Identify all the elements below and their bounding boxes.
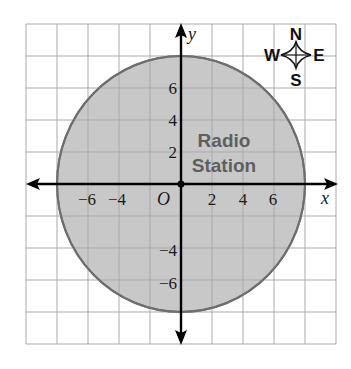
origin-point xyxy=(178,181,185,188)
x-tick-label: −4 xyxy=(108,190,127,209)
y-tick-label: 4 xyxy=(169,111,178,130)
region-label-line2: Station xyxy=(192,155,256,176)
compass-west-label: W xyxy=(264,46,281,65)
x-axis-label: x xyxy=(320,188,329,208)
coordinate-plane-figure: x y O −6 −4 2 4 6 6 4 2 −4 −6 Radio Stat… xyxy=(0,0,351,369)
compass-rose-icon: N S W E xyxy=(264,25,325,90)
compass-east-label: E xyxy=(313,46,324,65)
compass-south-label: S xyxy=(290,71,301,90)
coordinate-plane-svg: x y O −6 −4 2 4 6 6 4 2 −4 −6 Radio Stat… xyxy=(0,0,351,369)
y-tick-label: −4 xyxy=(159,241,178,260)
y-tick-label: −6 xyxy=(159,274,177,293)
x-tick-label: 4 xyxy=(239,190,248,209)
origin-label: O xyxy=(157,189,170,209)
x-tick-label: 6 xyxy=(269,190,278,209)
y-tick-label: 2 xyxy=(169,143,178,162)
compass-north-label: N xyxy=(290,25,302,44)
x-tick-label: 2 xyxy=(208,190,217,209)
y-axis-label: y xyxy=(186,24,196,44)
y-tick-label: 6 xyxy=(169,79,178,98)
x-tick-label: −6 xyxy=(78,190,96,209)
region-label-line1: Radio xyxy=(198,130,251,151)
